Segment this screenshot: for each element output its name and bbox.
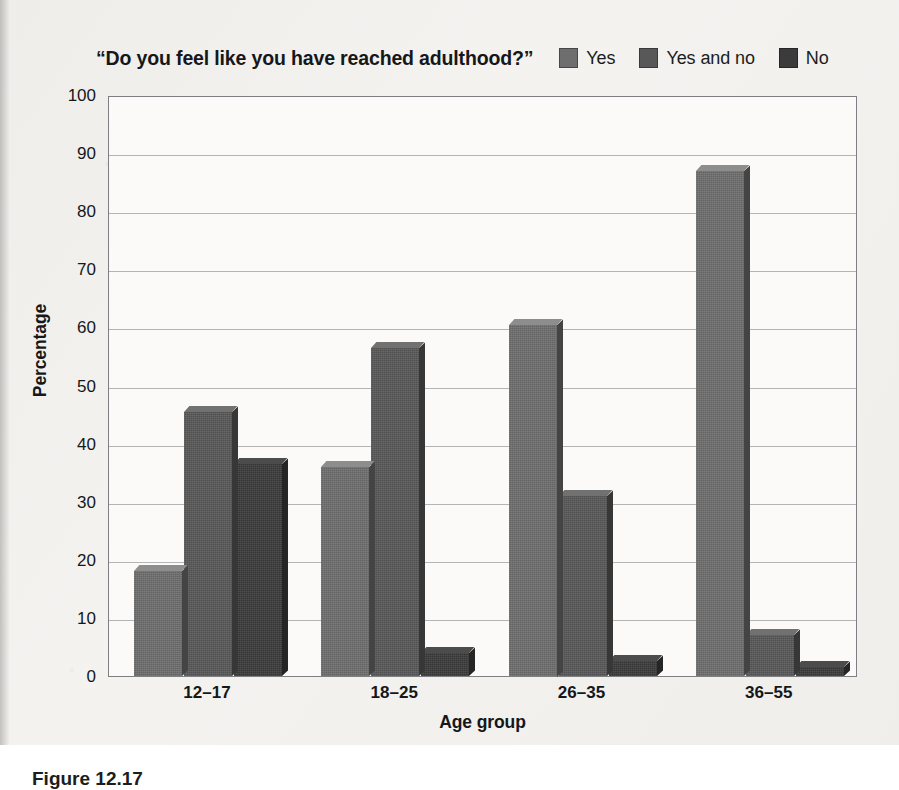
bar-front-face (371, 348, 419, 676)
chart-header: “Do you feel like you have reached adult… (96, 40, 864, 76)
y-tick-label: 100 (68, 86, 96, 106)
bar-front-face (184, 412, 232, 676)
x-tick-label: 12–17 (183, 683, 230, 703)
bar-front-face (559, 496, 607, 676)
bar-side-face (557, 319, 563, 676)
bar-yes-and-no-12-17 (184, 412, 232, 676)
y-tick-label: 0 (87, 667, 96, 687)
y-tick-label: 80 (77, 202, 96, 222)
y-tick-label: 60 (77, 318, 96, 338)
bar-yes-12-17 (134, 571, 182, 676)
y-tick-label: 20 (77, 551, 96, 571)
legend-item-label: Yes (586, 48, 615, 69)
bar-front-face (421, 653, 469, 676)
bar-yes-18-25 (321, 467, 369, 676)
x-tick-label: 26–35 (558, 683, 605, 703)
bar-side-face (232, 406, 238, 676)
y-tick-label: 90 (77, 144, 96, 164)
bar-side-face (744, 165, 750, 676)
bar-yes-36-55 (696, 171, 744, 676)
bar-yes-and-no-36-55 (746, 635, 794, 676)
y-tick-label: 10 (77, 609, 96, 629)
chart-title: “Do you feel like you have reached adult… (96, 47, 533, 70)
bar-no-18-25 (421, 653, 469, 676)
bar-front-face (746, 635, 794, 676)
bar-no-26-35 (609, 661, 657, 676)
bar-side-face (607, 490, 613, 676)
y-tick-label: 30 (77, 493, 96, 513)
x-tick-label: 36–55 (745, 683, 792, 703)
figure-caption: Figure 12.17 (32, 768, 143, 790)
bar-yes-and-no-26-35 (559, 496, 607, 676)
bar-front-face (696, 171, 744, 676)
bar-group-18-25 (321, 97, 469, 676)
bars-layer (109, 97, 856, 676)
bar-front-face (609, 661, 657, 676)
bar-no-12-17 (234, 464, 282, 676)
legend-item-no: No (779, 48, 829, 69)
bar-front-face (134, 571, 182, 676)
bar-front-face (234, 464, 282, 676)
legend-item-label: No (806, 48, 829, 69)
y-tick-label: 40 (77, 435, 96, 455)
bar-yes-26-35 (509, 325, 557, 677)
legend-item-yes: Yes (559, 48, 615, 69)
bar-group-12-17 (134, 97, 282, 676)
y-tick-label: 50 (77, 377, 96, 397)
x-axis-label: Age group (108, 712, 857, 733)
plot-area (108, 96, 857, 677)
bar-front-face (796, 667, 844, 676)
y-axis-label: Percentage (30, 291, 51, 411)
bar-side-face (419, 342, 425, 676)
chart-legend: YesYes and noNo (559, 48, 828, 69)
bar-group-36-55 (696, 97, 844, 676)
bar-side-face (282, 459, 288, 676)
legend-item-yes-and-no: Yes and no (639, 48, 754, 69)
y-axis-ticks: 0102030405060708090100 (0, 96, 108, 677)
legend-swatch-icon (779, 48, 798, 68)
legend-swatch-icon (559, 48, 578, 68)
bar-no-36-55 (796, 667, 844, 676)
bar-yes-and-no-18-25 (371, 348, 419, 676)
legend-item-label: Yes and no (666, 48, 754, 69)
bar-front-face (509, 325, 557, 677)
bar-group-26-35 (509, 97, 657, 676)
legend-swatch-icon (639, 48, 658, 68)
y-tick-label: 70 (77, 260, 96, 280)
bar-side-face (369, 461, 375, 676)
x-tick-label: 18–25 (371, 683, 418, 703)
bar-side-face (794, 630, 800, 676)
bar-front-face (321, 467, 369, 676)
bar-side-face (182, 566, 188, 676)
x-axis-ticks: 12–1718–2526–3536–55 (108, 683, 857, 709)
